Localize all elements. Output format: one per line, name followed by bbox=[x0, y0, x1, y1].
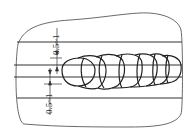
dimension-bottom-label: 0.5~1 bbox=[44, 93, 54, 114]
weld-diagram bbox=[0, 0, 194, 137]
weld-bead bbox=[62, 54, 181, 89]
dimension-top-label: 0.5~1 bbox=[51, 34, 61, 55]
